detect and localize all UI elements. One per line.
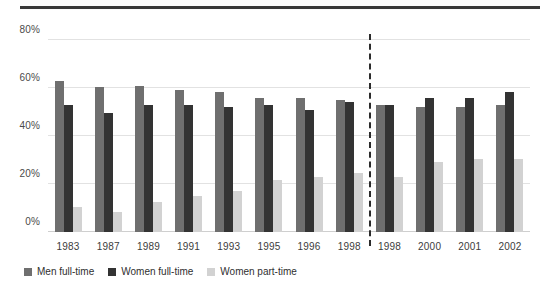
bar-women-full-time-1983-0 [64, 105, 73, 232]
bar-group: 1995 [249, 40, 289, 232]
legend-swatch-icon-0 [24, 268, 32, 276]
bar-women-part-time-1989-2 [153, 202, 162, 232]
bar-women-part-time-1983-0 [73, 207, 82, 232]
bar-group: 1993 [209, 40, 249, 232]
top-divider-rule [20, 6, 540, 9]
y-tick-label-40: 40% [19, 120, 40, 131]
x-tick-label-10: 2001 [458, 241, 481, 252]
bar-women-part-time-1996-6 [314, 177, 323, 232]
bar-women-full-time-1998-8 [385, 105, 394, 232]
legend-label-0: Men full-time [37, 266, 94, 277]
x-tick-label-5: 1995 [257, 241, 280, 252]
bar-groups: 1983198719891991199319951996199819982000… [48, 40, 530, 232]
bar-men-full-time-1987-1 [95, 87, 104, 232]
bar-group: 1996 [289, 40, 329, 232]
bar-women-part-time-1993-4 [233, 191, 242, 232]
bar-men-full-time-2001-10 [456, 107, 465, 232]
bar-group: 2000 [410, 40, 450, 232]
bar-women-part-time-1991-3 [193, 196, 202, 232]
bar-men-full-time-1993-4 [215, 92, 224, 232]
y-tick-label-60: 60% [19, 72, 40, 83]
bar-women-part-time-2002-11 [514, 159, 523, 232]
panel-divider-icon [369, 34, 371, 246]
bar-men-full-time-1989-2 [135, 86, 144, 232]
legend-label-2: Women part-time [220, 266, 297, 277]
plot-area: 0%20%40%60%80% 1983198719891991199319951… [48, 40, 530, 232]
x-tick-label-6: 1996 [298, 241, 321, 252]
x-tick-label-2: 1989 [137, 241, 160, 252]
bar-men-full-time-1995-5 [255, 98, 264, 232]
bar-women-full-time-1987-1 [104, 113, 113, 232]
legend-item-1: Women full-time [108, 266, 193, 277]
x-tick-label-11: 2002 [498, 241, 521, 252]
chart-legend: Men full-timeWomen full-timeWomen part-t… [24, 266, 297, 277]
bar-men-full-time-1996-6 [296, 98, 305, 232]
bar-group: 1998 [369, 40, 409, 232]
x-tick-label-4: 1993 [217, 241, 240, 252]
x-tick-label-1: 1987 [97, 241, 120, 252]
bar-men-full-time-1998-8 [376, 105, 385, 232]
bar-women-part-time-1995-5 [273, 180, 282, 232]
legend-swatch-icon-1 [108, 268, 116, 276]
bar-men-full-time-1991-3 [175, 90, 184, 232]
bar-women-full-time-2002-11 [505, 92, 514, 232]
legend-swatch-icon-2 [207, 268, 215, 276]
bar-group: 1989 [128, 40, 168, 232]
bar-women-full-time-1993-4 [224, 107, 233, 232]
y-tick-label-80: 80% [19, 24, 40, 35]
x-tick-label-7: 1998 [338, 241, 361, 252]
y-tick-label-20: 20% [19, 168, 40, 179]
legend-label-1: Women full-time [121, 266, 193, 277]
bar-women-full-time-1998-7 [345, 102, 354, 232]
bar-group: 2002 [490, 40, 530, 232]
bar-men-full-time-1983-0 [55, 81, 64, 232]
legend-item-2: Women part-time [207, 266, 297, 277]
bar-women-full-time-1996-6 [305, 110, 314, 232]
bar-group: 1998 [329, 40, 369, 232]
bar-women-full-time-1991-3 [184, 105, 193, 232]
x-tick-label-3: 1991 [177, 241, 200, 252]
y-tick-label-0: 0% [25, 216, 40, 227]
x-tick-label-0: 1983 [57, 241, 80, 252]
x-tick-label-8: 1998 [378, 241, 401, 252]
bar-women-part-time-1998-8 [394, 177, 403, 232]
bar-women-part-time-2001-10 [474, 159, 483, 232]
bar-men-full-time-2000-9 [416, 107, 425, 232]
bar-women-part-time-2000-9 [434, 162, 443, 232]
bar-group: 2001 [450, 40, 490, 232]
bar-group: 1983 [48, 40, 88, 232]
bar-men-full-time-1998-7 [336, 100, 345, 232]
bar-group: 1987 [88, 40, 128, 232]
bar-women-part-time-1998-7 [354, 173, 363, 232]
bar-group: 1991 [169, 40, 209, 232]
bar-women-full-time-1995-5 [264, 105, 273, 232]
bar-men-full-time-2002-11 [496, 105, 505, 232]
legend-item-0: Men full-time [24, 266, 94, 277]
bar-women-part-time-1987-1 [113, 212, 122, 232]
bar-women-full-time-2001-10 [465, 98, 474, 232]
chart-figure: 0%20%40%60%80% 1983198719891991199319951… [0, 0, 560, 300]
x-tick-label-9: 2000 [418, 241, 441, 252]
bar-women-full-time-1989-2 [144, 105, 153, 232]
bar-women-full-time-2000-9 [425, 98, 434, 232]
